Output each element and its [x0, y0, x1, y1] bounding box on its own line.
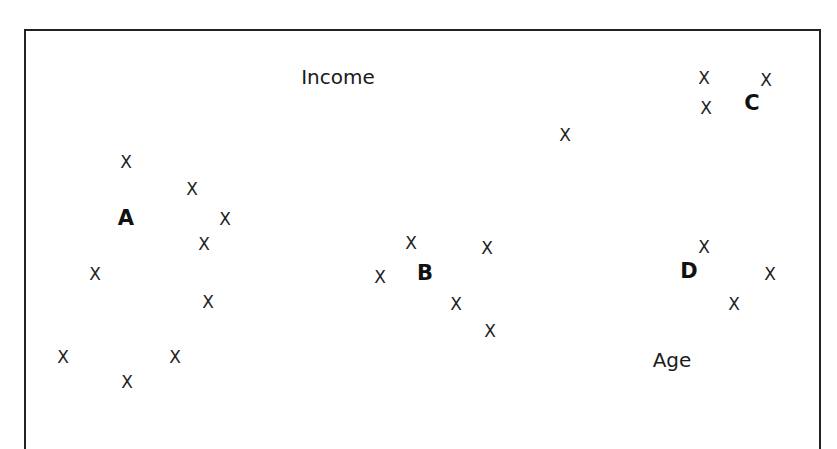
data-point-marker: X [219, 211, 231, 228]
data-point-marker: X [764, 266, 776, 283]
data-point-marker: X [374, 269, 386, 286]
data-point-marker: X [169, 349, 181, 366]
data-point-marker: X [450, 296, 462, 313]
data-point-marker: X [728, 296, 740, 313]
data-point-marker: X [57, 349, 69, 366]
cluster-label-c: C [744, 93, 759, 114]
data-point-marker: X [405, 235, 417, 252]
income-axis-label: Income [301, 67, 375, 87]
cluster-label-a: A [118, 208, 134, 229]
data-point-marker: X [89, 266, 101, 283]
data-point-marker: X [559, 127, 571, 144]
data-point-marker: X [120, 154, 132, 171]
data-point-marker: X [700, 100, 712, 117]
data-point-marker: X [202, 294, 214, 311]
cluster-label-b: B [417, 263, 433, 284]
cluster-label-d: D [680, 261, 697, 282]
data-point-marker: X [698, 70, 710, 87]
data-point-marker: X [121, 374, 133, 391]
data-point-marker: X [198, 236, 210, 253]
age-axis-label: Age [653, 350, 692, 370]
data-point-marker: X [698, 239, 710, 256]
data-point-marker: X [484, 323, 496, 340]
data-point-marker: X [481, 240, 493, 257]
data-point-marker: X [186, 181, 198, 198]
data-point-marker: X [760, 72, 772, 89]
